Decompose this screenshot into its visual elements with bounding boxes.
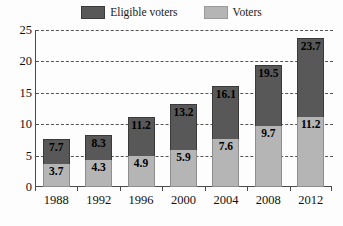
bar-slot-2000: 13.2 5.9 (162, 30, 204, 187)
bar-value-eligible-1988: 7.7 (49, 142, 63, 154)
x-label-1988: 1988 (35, 194, 77, 207)
bar-value-voters-1996: 4.9 (134, 158, 148, 170)
bar-segment-voters-1996[interactable]: 4.9 (128, 156, 155, 187)
legend-swatch-voters-icon (204, 6, 228, 19)
bar-slot-1996: 11.2 4.9 (120, 30, 162, 187)
bar-stack-1992[interactable]: 8.3 4.3 (85, 135, 112, 187)
legend-entry-eligible-voters: Eligible voters (81, 6, 177, 19)
x-tick-mark-6 (247, 187, 248, 191)
bar-stack-2000[interactable]: 13.2 5.9 (170, 104, 197, 187)
bar-stack-1996[interactable]: 11.2 4.9 (128, 117, 155, 187)
bar-segment-eligible-1996[interactable]: 11.2 (128, 117, 155, 157)
x-axis-ticks (35, 187, 332, 192)
legend-label-voters: Voters (233, 7, 262, 19)
bar-value-voters-2004: 7.6 (219, 141, 233, 153)
x-label-2008: 2008 (247, 194, 289, 207)
bar-slot-2012: 23.7 11.2 (290, 30, 332, 187)
legend-swatch-eligible-voters-icon (81, 6, 105, 19)
x-tick-mark-4 (162, 187, 163, 191)
x-tick-mark-5 (205, 187, 206, 191)
bar-segment-eligible-2008[interactable]: 19.5 (255, 65, 282, 127)
bar-stack-1988[interactable]: 7.7 3.7 (43, 139, 70, 187)
x-tick-mark-2 (77, 187, 78, 191)
legend-entry-voters: Voters (204, 6, 262, 19)
bar-value-eligible-1992: 8.3 (91, 138, 105, 150)
bar-value-voters-2012: 11.2 (301, 119, 321, 131)
x-label-2004: 2004 (205, 194, 247, 207)
y-tick-15: 15 (2, 87, 32, 100)
bar-slot-2004: 16.1 7.6 (205, 30, 247, 187)
x-tick-cell-2004 (205, 187, 247, 192)
bar-value-voters-1992: 4.3 (91, 162, 105, 174)
bar-slot-1988: 7.7 3.7 (35, 30, 77, 187)
legend-label-eligible-voters: Eligible voters (110, 7, 177, 19)
bar-value-eligible-2000: 13.2 (173, 107, 193, 119)
bar-value-voters-1988: 3.7 (49, 166, 63, 178)
bar-segment-eligible-1992[interactable]: 8.3 (85, 135, 112, 160)
bar-segment-voters-2004[interactable]: 7.6 (212, 139, 239, 187)
y-tick-20: 20 (2, 55, 32, 68)
bar-stack-2004[interactable]: 16.1 7.6 (212, 86, 239, 187)
bar-value-voters-2000: 5.9 (176, 152, 190, 164)
y-tick-25: 25 (2, 24, 32, 37)
x-tick-cell-1996 (120, 187, 162, 192)
x-label-1996: 1996 (120, 194, 162, 207)
stacked-bar-chart: Eligible voters Voters 25 20 15 10 5 0 7… (0, 0, 343, 226)
bar-segment-voters-2012[interactable]: 11.2 (297, 117, 324, 187)
y-tick-0: 0 (2, 181, 32, 194)
bar-segment-voters-2000[interactable]: 5.9 (170, 150, 197, 187)
bar-segment-voters-2008[interactable]: 9.7 (255, 126, 282, 187)
x-tick-mark-3 (120, 187, 121, 191)
y-tick-5: 5 (2, 149, 32, 162)
bar-value-eligible-2004: 16.1 (216, 89, 236, 101)
chart-legend: Eligible voters Voters (0, 6, 343, 19)
x-tick-cell-2012 (290, 187, 332, 192)
bar-value-eligible-2008: 19.5 (258, 68, 278, 80)
x-tick-mark-7 (290, 187, 291, 191)
y-axis: 25 20 15 10 5 0 (0, 30, 32, 187)
x-tick-cell-1992 (77, 187, 119, 192)
bar-value-voters-2008: 9.7 (261, 128, 275, 140)
bar-value-eligible-1996: 11.2 (131, 120, 151, 132)
x-tick-cell-2000 (162, 187, 204, 192)
bar-segment-eligible-2012[interactable]: 23.7 (297, 38, 324, 117)
y-tick-10: 10 (2, 118, 32, 131)
bar-value-eligible-2012: 23.7 (301, 41, 321, 53)
x-label-1992: 1992 (77, 194, 119, 207)
bar-segment-eligible-2000[interactable]: 13.2 (170, 104, 197, 150)
x-tick-mark-8 (331, 187, 332, 191)
bars-layer: 7.7 3.7 8.3 4.3 11.2 (35, 30, 332, 187)
x-label-2000: 2000 (162, 194, 204, 207)
bar-slot-1992: 8.3 4.3 (77, 30, 119, 187)
bar-segment-voters-1992[interactable]: 4.3 (85, 160, 112, 187)
bar-segment-voters-1988[interactable]: 3.7 (43, 164, 70, 187)
x-tick-mark-1 (35, 187, 36, 191)
x-tick-cell-1988 (35, 187, 77, 192)
x-tick-cell-2008 (247, 187, 289, 192)
bar-slot-2008: 19.5 9.7 (247, 30, 289, 187)
bar-segment-eligible-1988[interactable]: 7.7 (43, 139, 70, 164)
bar-stack-2008[interactable]: 19.5 9.7 (255, 65, 282, 187)
bar-stack-2012[interactable]: 23.7 11.2 (297, 38, 324, 187)
x-axis-labels: 1988 1992 1996 2000 2004 2008 2012 (35, 194, 332, 207)
x-label-2012: 2012 (290, 194, 332, 207)
bar-segment-eligible-2004[interactable]: 16.1 (212, 86, 239, 139)
